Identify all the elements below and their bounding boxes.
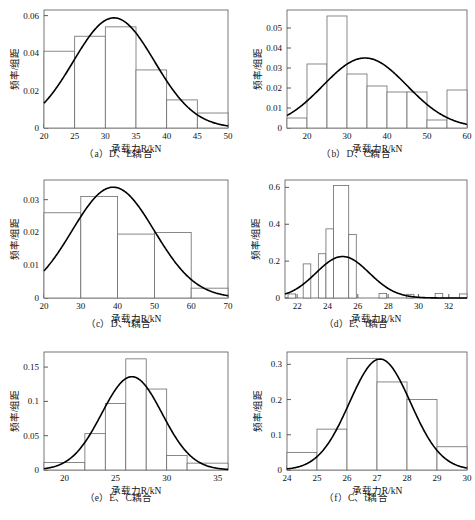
histogram-bar bbox=[288, 294, 296, 298]
x-tick-label: 35 bbox=[132, 131, 142, 141]
y-tick-label: 0.4 bbox=[269, 219, 281, 229]
y-tick-label: 0.6 bbox=[269, 182, 281, 192]
x-tick-label: 26 bbox=[353, 301, 363, 311]
histogram-bar bbox=[126, 359, 146, 470]
x-tick-label: 27 bbox=[373, 473, 383, 483]
histogram-bar bbox=[105, 27, 136, 128]
y-tick-label: 0.02 bbox=[23, 227, 39, 237]
panel-f: 00.10.20.324252627282930承载力R/kN频率/组距 （f）… bbox=[237, 340, 475, 520]
chart-b: 00.010.020.030.040.052030405060承载力R/kN频率… bbox=[237, 0, 475, 170]
histogram-bar bbox=[318, 254, 326, 298]
histogram-bar bbox=[154, 232, 191, 298]
x-tick-label: 60 bbox=[463, 131, 473, 141]
y-axis-label: 频率/组距 bbox=[250, 218, 261, 261]
normal-fit-curve bbox=[285, 257, 467, 298]
y-axis-label: 频率/组距 bbox=[9, 390, 20, 433]
histogram-bar bbox=[407, 400, 437, 470]
y-axis-label: 频率/组距 bbox=[9, 48, 20, 91]
histogram-bar bbox=[379, 293, 387, 298]
plot-frame bbox=[285, 180, 467, 298]
x-tick-label: 25 bbox=[313, 473, 323, 483]
panel-d: 00.20.40.6222426283032承载力R/kN频率/组距 （d）E、… bbox=[237, 170, 475, 340]
x-tick-label: 30 bbox=[162, 473, 172, 483]
x-tick-label: 30 bbox=[414, 301, 424, 311]
histogram-bar bbox=[349, 234, 357, 298]
y-tick-label: 0.01 bbox=[23, 260, 39, 270]
y-tick-label: 0.03 bbox=[266, 63, 282, 73]
y-tick-label: 0.3 bbox=[271, 359, 283, 369]
y-axis-label: 频率/组距 bbox=[9, 218, 20, 261]
histogram-bar bbox=[105, 403, 125, 470]
chart-a: 00.020.040.0620253035404550承载力R/kN频率/组距 bbox=[0, 0, 237, 170]
panel-f-caption: （f）C、t耦合 bbox=[237, 490, 475, 504]
chart-c: 00.010.020.03203040506070承载力R/kN频率/组距 bbox=[0, 170, 237, 340]
x-tick-label: 29 bbox=[433, 473, 443, 483]
y-tick-label: 0.04 bbox=[266, 43, 282, 53]
x-tick-label: 50 bbox=[423, 131, 433, 141]
x-tick-label: 30 bbox=[101, 131, 111, 141]
x-tick-label: 24 bbox=[323, 301, 333, 311]
x-tick-label: 45 bbox=[193, 131, 203, 141]
panel-e: 00.050.10.1520253035承载力R/kN频率/组距 （e）E、C耦… bbox=[0, 340, 237, 520]
x-tick-label: 30 bbox=[463, 473, 473, 483]
histogram-bar bbox=[387, 92, 407, 128]
y-tick-label: 0.03 bbox=[23, 195, 39, 205]
x-tick-label: 25 bbox=[70, 131, 80, 141]
histogram-bar bbox=[317, 429, 347, 470]
y-tick-label: 0 bbox=[278, 123, 283, 133]
y-tick-label: 0 bbox=[35, 465, 40, 475]
x-tick-label: 40 bbox=[162, 131, 172, 141]
x-tick-label: 50 bbox=[224, 131, 234, 141]
y-tick-label: 0.02 bbox=[23, 86, 39, 96]
x-tick-label: 24 bbox=[283, 473, 293, 483]
panel-b: 00.010.020.030.040.052030405060承载力R/kN频率… bbox=[237, 0, 475, 170]
panel-a-caption: （a）D、E耦合 bbox=[0, 146, 237, 160]
histogram-bar bbox=[377, 382, 407, 470]
x-tick-label: 50 bbox=[150, 301, 160, 311]
histogram-bar bbox=[167, 456, 187, 470]
y-tick-label: 0.05 bbox=[266, 23, 282, 33]
x-tick-label: 20 bbox=[40, 301, 50, 311]
x-tick-label: 28 bbox=[403, 473, 413, 483]
histogram-bar bbox=[118, 234, 155, 298]
x-tick-label: 22 bbox=[293, 301, 302, 311]
panel-b-caption: （b）D、C耦合 bbox=[237, 146, 475, 160]
y-tick-label: 0.2 bbox=[269, 256, 280, 266]
x-tick-label: 30 bbox=[343, 131, 353, 141]
histogram-bar bbox=[75, 36, 106, 128]
figure-panel-grid: 00.020.040.0620253035404550承载力R/kN频率/组距 … bbox=[0, 0, 475, 520]
histogram-bar bbox=[81, 196, 118, 298]
x-tick-label: 70 bbox=[224, 301, 234, 311]
panel-a: 00.020.040.0620253035404550承载力R/kN频率/组距 … bbox=[0, 0, 237, 170]
panel-c-caption: （c）D、t耦合 bbox=[0, 316, 237, 330]
histogram-bar bbox=[307, 64, 327, 128]
y-tick-label: 0.05 bbox=[23, 431, 39, 441]
chart-d: 00.20.40.6222426283032承载力R/kN频率/组距 bbox=[237, 170, 475, 340]
x-tick-label: 28 bbox=[384, 301, 394, 311]
histogram-bar bbox=[427, 120, 447, 128]
panel-e-caption: （e）E、C耦合 bbox=[0, 490, 237, 504]
y-tick-label: 0.04 bbox=[23, 48, 39, 58]
x-tick-label: 40 bbox=[113, 301, 123, 311]
histogram-bar bbox=[367, 86, 387, 128]
histogram-bar bbox=[44, 462, 85, 470]
histogram-bar bbox=[347, 74, 367, 128]
y-tick-label: 0.15 bbox=[23, 362, 39, 372]
x-tick-label: 26 bbox=[343, 473, 353, 483]
panel-d-caption: （d）E、t耦合 bbox=[237, 316, 475, 330]
histogram-bar bbox=[136, 70, 167, 128]
x-tick-label: 20 bbox=[60, 473, 70, 483]
histogram-bar bbox=[44, 51, 75, 128]
x-tick-label: 25 bbox=[111, 473, 121, 483]
y-tick-label: 0 bbox=[276, 293, 281, 303]
x-tick-label: 32 bbox=[444, 301, 453, 311]
x-tick-label: 35 bbox=[213, 473, 223, 483]
y-tick-label: 0.01 bbox=[266, 103, 282, 113]
y-tick-label: 0.06 bbox=[23, 11, 39, 21]
x-tick-label: 40 bbox=[383, 131, 393, 141]
y-tick-label: 0.1 bbox=[271, 430, 282, 440]
histogram-bar bbox=[407, 92, 427, 128]
histogram-bar bbox=[287, 118, 307, 128]
histogram-bar bbox=[146, 389, 166, 470]
x-tick-label: 20 bbox=[303, 131, 313, 141]
